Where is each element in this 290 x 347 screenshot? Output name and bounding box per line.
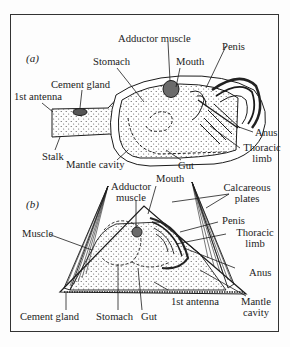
label-b-muscle: Muscle — [22, 228, 53, 239]
label-a-mouth: Mouth — [176, 56, 204, 67]
label-a-mantle-cavity: Mantle cavity — [66, 159, 125, 170]
barnacle-anatomy-illustration — [0, 0, 290, 347]
label-b-gut: Gut — [141, 311, 157, 322]
label-b-penis: Penis — [222, 215, 245, 226]
label-b-calcareous-plates: Calcareous plates — [218, 182, 276, 204]
label-a-cement-gland: Cement gland — [51, 79, 110, 90]
label-b-mouth: Mouth — [156, 173, 184, 184]
label-b-stomach: Stomach — [96, 311, 133, 322]
label-a-stalk: Stalk — [42, 151, 64, 162]
label-b-cement-gland: Cement gland — [20, 311, 79, 322]
label-a-thoracic-limb: Thoracic limb — [240, 142, 284, 164]
label-a-anus: Anus — [255, 127, 277, 138]
label-b-adductor-muscle: Adductor muscle — [108, 181, 154, 203]
label-b-first-antenna: 1st antenna — [171, 296, 219, 307]
label-b-thoracic-limb: Thoracic limb — [232, 227, 278, 249]
label-a-penis: Penis — [222, 41, 245, 52]
label-b-anus: Anus — [249, 267, 271, 278]
panel-b-tag: (b) — [26, 198, 39, 210]
label-a-first-antenna: 1st antenna — [14, 91, 62, 102]
label-a-gut: Gut — [178, 160, 194, 171]
label-a-adductor-muscle: Adductor muscle — [118, 33, 191, 44]
label-a-stomach: Stomach — [93, 56, 130, 67]
label-b-mantle-cavity: Mantle cavity — [236, 296, 276, 318]
panel-a-tag: (a) — [26, 52, 39, 64]
